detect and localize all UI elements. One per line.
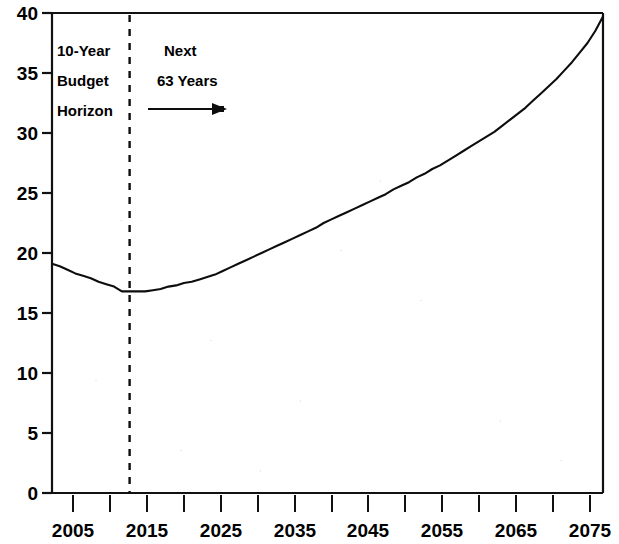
budget-horizon-line-2: Budget bbox=[57, 72, 109, 89]
next-years-line-2: 63 Years bbox=[157, 72, 218, 89]
y-tick-label-5: 5 bbox=[27, 423, 38, 444]
y-tick-label-10: 10 bbox=[17, 363, 38, 384]
x-tick-label-2015: 2015 bbox=[126, 520, 169, 541]
y-tick-label-15: 15 bbox=[17, 303, 39, 324]
line-chart-figure: 40 35 30 25 20 15 10 5 0 bbox=[0, 0, 619, 544]
budget-horizon-line-1: 10-Year bbox=[57, 42, 111, 59]
budget-horizon-line-3: Horizon bbox=[57, 102, 113, 119]
y-tick-label-40: 40 bbox=[17, 3, 38, 24]
y-tick-label-20: 20 bbox=[17, 243, 38, 264]
y-tick-label-35: 35 bbox=[17, 63, 39, 84]
x-tick-label-2045: 2045 bbox=[347, 520, 390, 541]
budget-horizon-annotation: 10-Year Budget Horizon bbox=[57, 42, 113, 119]
x-tick-label-2055: 2055 bbox=[421, 520, 464, 541]
x-tick-label-2005: 2005 bbox=[52, 520, 95, 541]
next-years-line-1: Next bbox=[164, 42, 197, 59]
chart-container: 40 35 30 25 20 15 10 5 0 bbox=[0, 0, 619, 544]
x-tick-label-2025: 2025 bbox=[200, 520, 243, 541]
y-tick-label-0: 0 bbox=[27, 483, 38, 504]
y-tick-label-30: 30 bbox=[17, 123, 38, 144]
y-tick-label-25: 25 bbox=[17, 183, 39, 204]
x-tick-label-2035: 2035 bbox=[274, 520, 317, 541]
x-tick-label-2075: 2075 bbox=[569, 520, 612, 541]
x-tick-label-2065: 2065 bbox=[495, 520, 538, 541]
